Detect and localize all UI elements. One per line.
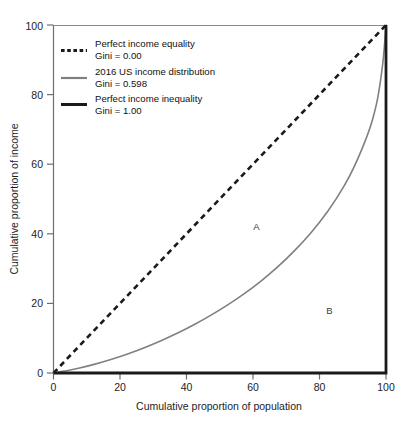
legend-entry-lorenz: 2016 US income distribution Gini = 0.598 xyxy=(61,66,215,89)
legend-label-inequality: Perfect income inequality xyxy=(95,93,202,104)
y-axis-tick-labels: 0 20 40 60 80 100 xyxy=(25,20,43,380)
y-tick-label-20: 20 xyxy=(31,297,43,309)
x-tick-label-0: 0 xyxy=(51,381,57,393)
lorenz-curve-figure: 0 20 40 60 80 100 0 20 40 60 80 100 xyxy=(0,0,411,427)
y-tick-label-40: 40 xyxy=(31,228,43,240)
x-axis-title: Cumulative proportion of population xyxy=(136,400,302,412)
x-tick-label-100: 100 xyxy=(377,381,395,393)
region-label-a: A xyxy=(253,221,260,232)
y-axis-title: Cumulative proportion of income xyxy=(8,123,20,274)
legend-sub-lorenz: Gini = 0.598 xyxy=(95,78,147,89)
x-tick-label-60: 60 xyxy=(247,381,259,393)
y-tick-label-60: 60 xyxy=(31,158,43,170)
x-tick-label-20: 20 xyxy=(114,381,126,393)
chart-svg: 0 20 40 60 80 100 0 20 40 60 80 100 xyxy=(0,0,411,427)
legend-sub-inequality: Gini = 1.00 xyxy=(95,105,142,116)
legend-label-equality: Perfect income equality xyxy=(95,38,195,49)
y-tick-label-100: 100 xyxy=(25,20,43,32)
y-tick-label-80: 80 xyxy=(31,89,43,101)
y-axis-ticks xyxy=(47,25,54,373)
legend-entry-equality: Perfect income equality Gini = 0.00 xyxy=(61,38,195,61)
chart-legend: Perfect income equality Gini = 0.00 2016… xyxy=(61,38,215,116)
legend-sub-equality: Gini = 0.00 xyxy=(95,50,142,61)
legend-entry-inequality: Perfect income inequality Gini = 1.00 xyxy=(61,93,202,116)
y-tick-label-0: 0 xyxy=(37,367,43,379)
x-tick-label-80: 80 xyxy=(314,381,326,393)
x-axis-tick-labels: 0 20 40 60 80 100 xyxy=(51,381,395,393)
region-label-b: B xyxy=(326,305,332,316)
legend-label-lorenz: 2016 US income distribution xyxy=(95,66,215,77)
x-tick-label-40: 40 xyxy=(181,381,193,393)
